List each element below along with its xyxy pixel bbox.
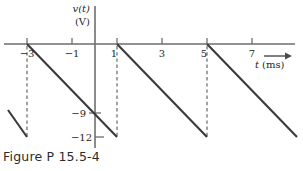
x-axis-label-var: t bbox=[255, 59, 260, 70]
figure-container: −3 −1 1 3 5 7 −9 −12 v(t) (V) t (ms) Fig… bbox=[0, 0, 303, 171]
x-axis-label-unit: (ms) bbox=[262, 59, 285, 70]
x-tick-label-1: 1 bbox=[111, 48, 117, 59]
y-tick-label-neg12: −12 bbox=[71, 132, 92, 143]
x-axis-arrow-icon bbox=[285, 53, 292, 60]
y-axis-label-line2: (V) bbox=[75, 16, 90, 27]
waveform-ramp-partial bbox=[8, 110, 27, 137]
x-tick-label-3: 3 bbox=[159, 48, 165, 59]
x-tick-label-5: 5 bbox=[201, 48, 207, 59]
x-tick-label-7: 7 bbox=[249, 48, 255, 59]
figure-caption: Figure P 15.5-4 bbox=[3, 149, 100, 164]
y-tick-label-neg9: −9 bbox=[71, 108, 86, 119]
x-tick-label-neg3: −3 bbox=[20, 48, 35, 59]
y-axis-label-line1: v(t) bbox=[73, 3, 91, 14]
waveform-plot: −3 −1 1 3 5 7 −9 −12 v(t) (V) t (ms) bbox=[0, 0, 303, 171]
x-tick-label-neg1: −1 bbox=[65, 48, 80, 59]
